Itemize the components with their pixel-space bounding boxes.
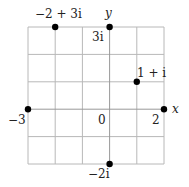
label-neg3: −3 xyxy=(8,113,26,127)
point-neg3 xyxy=(25,106,31,112)
label-1-plus-i: 1 + i xyxy=(137,66,166,80)
point-2 xyxy=(161,106,167,112)
points xyxy=(25,24,167,167)
axes xyxy=(28,27,164,164)
label-neg2i: −2i xyxy=(88,167,110,181)
label-neg2-plus-3i: −2 + 3i xyxy=(35,7,82,21)
point-neg2-plus-3i xyxy=(52,24,58,30)
label-3i: 3i xyxy=(92,30,104,44)
x-axis-label: x xyxy=(172,102,179,116)
complex-plane-diagram: −2 + 3i y 3i 1 + i −3 0 2 x −2i xyxy=(0,0,189,187)
label-2: 2 xyxy=(152,113,160,127)
point-3i xyxy=(106,24,112,30)
label-origin: 0 xyxy=(98,113,106,127)
y-axis-label: y xyxy=(104,6,112,20)
grid xyxy=(28,27,164,164)
